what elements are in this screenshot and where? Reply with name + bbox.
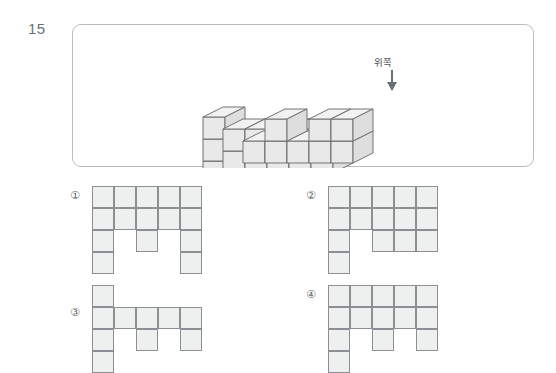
cube-face — [203, 117, 225, 139]
cube-face — [331, 141, 353, 163]
grid-cell — [416, 285, 438, 307]
grid-cell — [328, 230, 350, 252]
grid-cell — [158, 307, 180, 329]
grid-cell — [372, 329, 394, 351]
grid-cell — [372, 307, 394, 329]
grid-cell — [114, 186, 136, 208]
grid-cell — [136, 186, 158, 208]
isometric-cube-solid — [73, 25, 535, 168]
grid-cell — [328, 307, 350, 329]
cube-face — [223, 129, 245, 151]
cube-face — [265, 119, 287, 141]
cube-face — [203, 161, 225, 168]
grid-cell — [328, 351, 350, 373]
cube-face — [309, 119, 331, 141]
grid-cell — [180, 307, 202, 329]
grid-cell — [136, 329, 158, 351]
grid-cell — [372, 230, 394, 252]
grid-cell — [158, 208, 180, 230]
grid-cell — [328, 329, 350, 351]
grid-cell — [372, 186, 394, 208]
grid-cell — [372, 285, 394, 307]
grid-cell — [394, 186, 416, 208]
grid-cell — [136, 230, 158, 252]
cube-face — [331, 119, 353, 141]
grid-cell — [180, 252, 202, 274]
grid-cell — [328, 252, 350, 274]
grid-cell — [372, 208, 394, 230]
grid-cell — [394, 285, 416, 307]
grid-cell — [92, 351, 114, 373]
grid-cell — [158, 186, 180, 208]
grid-cell — [114, 307, 136, 329]
grid-cell — [180, 329, 202, 351]
grid-cell — [180, 186, 202, 208]
grid-cell — [350, 208, 372, 230]
grid-cell — [92, 329, 114, 351]
grid-cell — [416, 307, 438, 329]
grid-cell — [416, 329, 438, 351]
cube-face — [243, 141, 265, 163]
cube-face — [223, 151, 245, 168]
grid-cell — [416, 186, 438, 208]
grid-cell — [136, 208, 158, 230]
grid-cell — [394, 208, 416, 230]
cube-face — [309, 141, 331, 163]
grid-cell — [328, 285, 350, 307]
option-3-label: ③ — [70, 307, 80, 318]
grid-cell — [416, 208, 438, 230]
cube-face — [265, 141, 287, 163]
grid-cell — [328, 186, 350, 208]
grid-cell — [114, 208, 136, 230]
grid-cell — [180, 230, 202, 252]
option-4-label: ④ — [306, 289, 316, 300]
grid-cell — [328, 208, 350, 230]
grid-cell — [92, 186, 114, 208]
option-2-label: ② — [306, 190, 316, 201]
option-1-label: ① — [70, 190, 80, 201]
grid-cell — [350, 186, 372, 208]
question-number: 15 — [28, 20, 46, 37]
grid-cell — [394, 307, 416, 329]
grid-cell — [350, 285, 372, 307]
cube-face — [203, 139, 225, 161]
grid-cell — [92, 230, 114, 252]
cube-face — [287, 141, 309, 163]
grid-cell — [394, 230, 416, 252]
grid-cell — [350, 307, 372, 329]
grid-cell — [180, 208, 202, 230]
grid-cell — [92, 252, 114, 274]
grid-cell — [92, 208, 114, 230]
grid-cell — [136, 307, 158, 329]
grid-cell — [92, 285, 114, 307]
figure-panel: 위쪽 — [72, 24, 534, 167]
grid-cell — [416, 230, 438, 252]
grid-cell — [92, 307, 114, 329]
